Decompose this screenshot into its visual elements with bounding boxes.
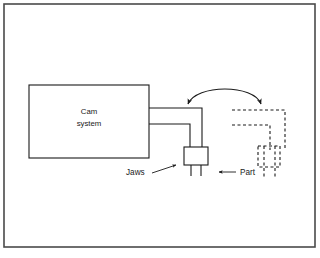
cam-system-label-line2: system bbox=[77, 119, 102, 128]
figure-container: Cam system Jaws Part bbox=[0, 0, 320, 258]
schematic-diagram: Cam system Jaws Part bbox=[0, 0, 320, 258]
part-label: Part bbox=[240, 168, 256, 177]
cam-system-label-line1: Cam bbox=[81, 107, 97, 116]
jaws-block bbox=[184, 147, 208, 165]
jaws-label: Jaws bbox=[126, 168, 145, 177]
